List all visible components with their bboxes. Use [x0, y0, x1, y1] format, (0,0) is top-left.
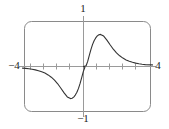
- y-max-label: 1: [80, 3, 86, 14]
- x-max-label: 4: [155, 60, 161, 71]
- y-min-label: −1: [77, 113, 89, 124]
- graph-figure: 1 −1 −4 4: [0, 0, 169, 129]
- x-min-label: −4: [8, 60, 20, 71]
- plot-canvas: [0, 0, 169, 129]
